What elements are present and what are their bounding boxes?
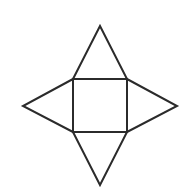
square-pyramid-net-diagram xyxy=(0,0,196,192)
figure-canvas xyxy=(0,0,196,192)
